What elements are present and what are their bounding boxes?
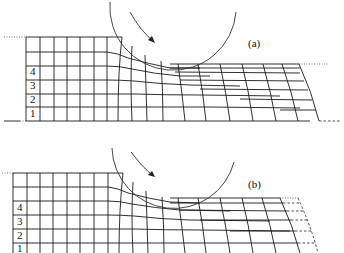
roll-circle: [110, 2, 236, 70]
grid-exit: [170, 64, 319, 121]
panel-label-a: (a): [248, 37, 261, 50]
row-label: 4: [17, 201, 23, 213]
grid-deformation-zone: [119, 173, 298, 253]
rolling-deformation-diagram: (a) 4 3 2 1: [0, 0, 344, 253]
row-label: 2: [30, 93, 36, 105]
roll-circle: [112, 148, 234, 208]
panel-a: (a) 4 3 2 1: [4, 2, 340, 121]
elastic-recovery-lines: [280, 198, 318, 253]
rotation-arrow: [131, 152, 152, 175]
panel-label-b: (b): [248, 178, 261, 191]
row-label: 1: [30, 107, 36, 119]
rotation-arrow: [130, 12, 152, 40]
row-label: 4: [30, 65, 36, 77]
row-label: 3: [30, 79, 36, 91]
panel-b: (b) 4 3 2 1: [2, 148, 318, 253]
row-label: 2: [17, 229, 23, 241]
row-label: 1: [17, 242, 23, 253]
grid-deformation-zone: [118, 37, 300, 121]
row-label: 3: [17, 215, 23, 227]
